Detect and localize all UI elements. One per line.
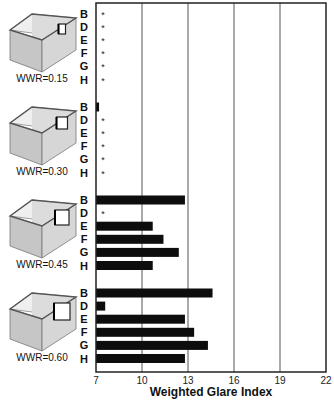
row-label-E: E — [80, 313, 87, 325]
bar-WWR=0.60-D — [96, 302, 105, 311]
room-window-small-icon — [10, 14, 76, 72]
group-label: WWR=0.45 — [16, 259, 68, 270]
x-axis-title: Weighted Glare Index — [150, 385, 273, 399]
x-tick-label: 19 — [274, 375, 286, 386]
marker-WWR=0.15-B: * — [101, 10, 105, 20]
row-label-F: F — [81, 326, 88, 338]
row-label-G: G — [80, 339, 89, 351]
row-label-F: F — [81, 140, 88, 152]
marker-WWR=0.15-G: * — [101, 62, 105, 72]
room-window-large-icon — [10, 200, 76, 258]
row-label-D: D — [80, 300, 88, 312]
marker-WWR=0.30-E: * — [101, 129, 105, 139]
row-label-H: H — [80, 260, 88, 272]
row-label-D: D — [80, 114, 88, 126]
row-label-B: B — [80, 8, 88, 20]
bar-WWR=0.60-E — [96, 315, 185, 324]
marker-WWR=0.30-G: * — [101, 155, 105, 165]
row-label-G: G — [80, 60, 89, 72]
row-label-F: F — [81, 233, 88, 245]
bar-WWR=0.60-F — [96, 328, 194, 337]
room-window-xlarge-icon — [10, 293, 76, 351]
bar-WWR=0.45-B — [96, 196, 185, 205]
row-label-D: D — [80, 207, 88, 219]
x-tick-label: 10 — [136, 375, 148, 386]
row-label-G: G — [80, 246, 89, 258]
row-label-H: H — [80, 353, 88, 365]
row-label-E: E — [80, 220, 87, 232]
marker-WWR=0.45-D: * — [101, 209, 105, 219]
marker-WWR=0.15-D: * — [101, 23, 105, 33]
bar-WWR=0.60-B — [96, 289, 213, 298]
bar-WWR=0.45-H — [96, 261, 153, 270]
bar-WWR=0.45-F — [96, 235, 163, 244]
room-window-medium-icon — [10, 107, 76, 165]
row-label-D: D — [80, 21, 88, 33]
bar-WWR=0.45-G — [96, 248, 179, 257]
marker-WWR=0.30-D: * — [101, 116, 105, 126]
marker-WWR=0.15-H: * — [101, 76, 105, 86]
row-label-F: F — [81, 47, 88, 59]
row-labels: BDEFGHBDEFGHBDEFGHBDEFGH — [80, 8, 89, 365]
marker-WWR=0.15-F: * — [101, 49, 105, 59]
row-label-B: B — [80, 287, 88, 299]
group-label: WWR=0.60 — [16, 352, 68, 363]
bar-WWR=0.45-E — [96, 222, 153, 231]
row-label-E: E — [80, 127, 87, 139]
row-label-G: G — [80, 153, 89, 165]
row-label-H: H — [80, 74, 88, 86]
x-tick-label: 22 — [320, 375, 332, 386]
marker-WWR=0.30-F: * — [101, 142, 105, 152]
bar-WWR=0.60-G — [96, 341, 208, 350]
row-label-B: B — [80, 194, 88, 206]
marker-WWR=0.15-E: * — [101, 36, 105, 46]
row-label-E: E — [80, 34, 87, 46]
glare-index-chart: WWR=0.15WWR=0.30WWR=0.45WWR=0.60 *******… — [0, 0, 334, 401]
x-tick-label: 7 — [93, 375, 99, 386]
bar-WWR=0.60-H — [96, 354, 185, 363]
room-icons: WWR=0.15WWR=0.30WWR=0.45WWR=0.60 — [10, 14, 76, 363]
marker-WWR=0.30-H: * — [101, 169, 105, 179]
bars: ************ — [96, 10, 213, 363]
row-label-H: H — [80, 167, 88, 179]
row-label-B: B — [80, 101, 88, 113]
group-label: WWR=0.30 — [16, 166, 68, 177]
group-label: WWR=0.15 — [16, 73, 68, 84]
